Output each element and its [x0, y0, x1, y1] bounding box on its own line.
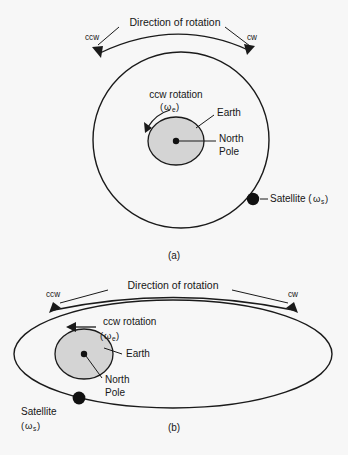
satellite-dot-a [247, 193, 259, 205]
pole-label-b: Pole [105, 387, 125, 398]
figure-svg: Direction of rotation ccw cw ccw rotatio… [0, 0, 348, 455]
direction-of-rotation-label-a: Direction of rotation [129, 16, 220, 28]
panel-caption-a: (a) [168, 250, 180, 261]
cw-arrowhead-b [286, 302, 298, 313]
cw-label-b: cw [288, 290, 298, 299]
direction-leader-left-b [60, 290, 108, 303]
panel-a-group: Direction of rotation ccw cw ccw rotatio… [85, 16, 328, 261]
panel-caption-b: (b) [168, 422, 180, 433]
earth-omega-close-a: ) [176, 101, 179, 112]
earth-label-a: Earth [217, 107, 241, 118]
ccw-label-a: ccw [85, 33, 99, 42]
pole-label-a: Pole [219, 146, 239, 157]
satellite-label-b: Satellite [21, 406, 57, 417]
direction-leader-left-a [98, 27, 119, 45]
direction-of-rotation-label-b: Direction of rotation [127, 279, 218, 291]
rotation-arc-a [100, 34, 248, 53]
cw-label-a: cw [247, 33, 257, 42]
ccw-rotation-label-b: ccw rotation [103, 316, 156, 327]
earth-omega-glyph-b: ω [104, 330, 112, 341]
earth-omega-glyph-a: ω [164, 101, 172, 112]
satellite-label-a: Satellite ( [270, 193, 312, 204]
panel-b-group: Direction of rotation ccw cw ccw rotatio… [14, 279, 332, 433]
ccw-rotation-label-a: ccw rotation [149, 89, 202, 100]
north-label-a: North [219, 133, 243, 144]
satellite-omega-close-b: ) [37, 420, 40, 431]
satellite-orbit-figure: Direction of rotation ccw cw ccw rotatio… [0, 0, 348, 455]
earth-rotation-arrowhead-b [66, 322, 76, 332]
earth-omega-symbol-a: ( ω e ) [160, 101, 179, 113]
satellite-omega-glyph-b: ω [25, 420, 33, 431]
earth-label-b: Earth [126, 348, 150, 359]
satellite-omega-close-a: ) [325, 193, 328, 204]
ccw-arrowhead-a [92, 46, 103, 58]
earth-omega-symbol-b: ( ω e ) [100, 330, 119, 342]
earth-omega-close-b: ) [116, 330, 119, 341]
ccw-label-b: ccw [46, 290, 60, 299]
satellite-omega-symbol-b: ( ω s ) [21, 420, 40, 432]
north-label-b: North [105, 374, 129, 385]
satellite-label-group-a: Satellite ( ω s ) [270, 193, 328, 205]
ccw-arrowhead-b [49, 302, 61, 313]
earth-leader-a [196, 115, 214, 128]
satellite-omega-glyph-a: ω [313, 193, 321, 204]
satellite-dot-b [73, 392, 86, 405]
cw-arrowhead-a [244, 44, 255, 55]
